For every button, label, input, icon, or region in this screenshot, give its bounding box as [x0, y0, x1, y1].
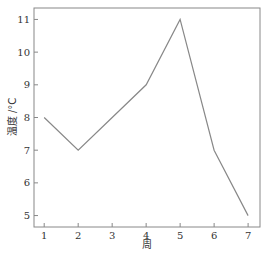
x-tick-label: 1 [41, 230, 47, 241]
y-axis-label: 温度 /°C [6, 98, 18, 137]
y-axis-ticks: 567891011 [17, 14, 38, 221]
y-tick-label: 11 [17, 14, 30, 25]
plot-frame [34, 8, 260, 227]
y-tick-label: 6 [24, 177, 30, 188]
temperature-line [44, 19, 248, 215]
y-tick-label: 10 [17, 47, 30, 58]
x-tick-label: 6 [211, 230, 217, 241]
y-tick-label: 9 [24, 79, 30, 90]
y-tick-label: 8 [24, 112, 30, 123]
x-tick-label: 5 [177, 230, 183, 241]
y-tick-label: 5 [24, 210, 30, 221]
x-tick-label: 2 [75, 230, 81, 241]
x-tick-label: 7 [245, 230, 251, 241]
y-tick-label: 7 [24, 145, 30, 156]
line-chart: 567891011 1234567 周 温度 /°C [0, 0, 266, 263]
x-axis-label: 周 [142, 239, 152, 250]
x-tick-label: 3 [109, 230, 115, 241]
